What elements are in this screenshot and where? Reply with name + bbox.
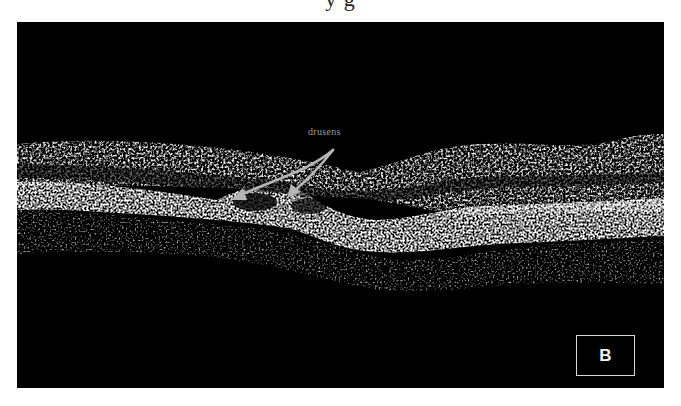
drusens-annotation-label: drusens: [308, 126, 341, 137]
retina-layers-graphic: [17, 22, 664, 388]
oct-scan-image: drusens B: [17, 22, 664, 388]
drusen-pocket-2: [291, 198, 327, 214]
figure-caption-fragment: y g: [0, 0, 681, 12]
panel-label: B: [599, 346, 611, 366]
panel-label-box: B: [576, 335, 635, 376]
